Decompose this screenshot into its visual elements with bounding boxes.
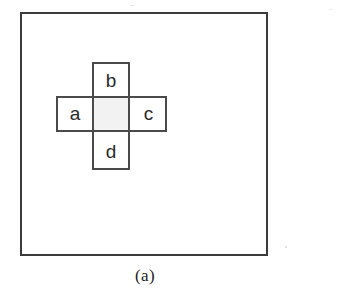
cell-b-label: b <box>106 71 117 90</box>
scan-speckle <box>330 9 332 10</box>
scan-speckle <box>131 5 134 6</box>
cross-shape-group: a b c d <box>0 0 346 301</box>
cell-c-label: c <box>144 104 154 123</box>
cell-a-label: a <box>70 104 81 123</box>
cell-d-label: d <box>106 142 117 161</box>
figure-panel-a: a b c d (a) <box>0 0 346 301</box>
scan-speckle <box>285 246 287 248</box>
cell-a: a <box>56 96 94 132</box>
cell-b: b <box>92 62 130 98</box>
cell-c: c <box>128 96 167 132</box>
cell-d: d <box>92 130 130 170</box>
cell-center <box>92 96 130 132</box>
figure-caption: (a) <box>0 266 290 286</box>
